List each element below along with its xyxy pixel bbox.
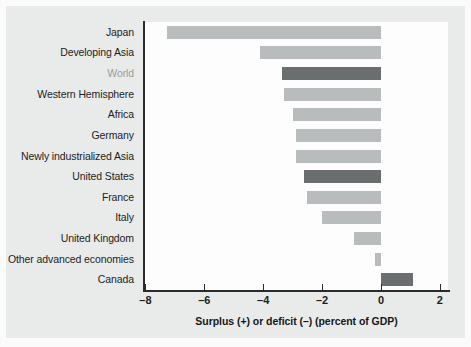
bar [293, 108, 381, 121]
category-label: Africa [108, 109, 134, 120]
bar [296, 150, 381, 163]
category-label: Western Hemisphere [37, 89, 134, 100]
bar [375, 253, 381, 266]
x-tick [204, 284, 205, 291]
y-axis-line [143, 21, 145, 291]
category-label: France [102, 192, 134, 203]
bar [304, 170, 381, 183]
x-tick [145, 284, 146, 291]
bar [354, 232, 381, 245]
x-tick [440, 284, 441, 291]
x-tick-label: –6 [198, 294, 210, 306]
x-axis-line [143, 290, 450, 292]
category-label: World [107, 68, 134, 79]
category-label: Other advanced economies [8, 254, 134, 265]
category-label: Newly industrialized Asia [21, 151, 134, 162]
x-tick [263, 284, 264, 291]
bar [296, 129, 381, 142]
bar [167, 26, 381, 39]
x-tick-label: –2 [316, 294, 328, 306]
category-label: United Kingdom [61, 233, 134, 244]
x-tick [322, 284, 323, 291]
x-tick-label: –8 [139, 294, 151, 306]
category-label: Japan [106, 27, 134, 38]
x-tick [381, 284, 382, 291]
bar [307, 191, 381, 204]
category-label: Germany [92, 130, 134, 141]
bar [284, 88, 381, 101]
x-tick-label: –4 [257, 294, 269, 306]
x-tick-label: 0 [378, 294, 384, 306]
category-axis-labels: JapanDeveloping AsiaWorldWestern Hemisph… [0, 22, 138, 290]
bar [322, 211, 381, 224]
x-axis-title: Surplus (+) or deficit (–) (percent of G… [143, 315, 450, 327]
category-label: United States [72, 171, 134, 182]
x-tick-label: 2 [437, 294, 443, 306]
bar [260, 46, 381, 59]
bar [381, 273, 413, 286]
category-label: Italy [115, 212, 134, 223]
bar [282, 67, 381, 80]
chart-figure: JapanDeveloping AsiaWorldWestern Hemisph… [0, 0, 471, 347]
category-label: Canada [98, 274, 134, 285]
category-label: Developing Asia [60, 47, 134, 58]
